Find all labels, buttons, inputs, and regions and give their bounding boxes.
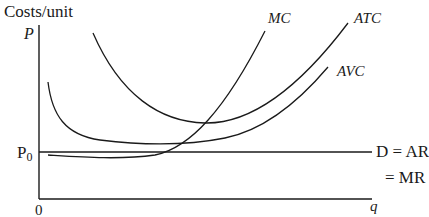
atc-label: ATC xyxy=(354,11,381,26)
mr-label: = MR xyxy=(385,169,425,186)
avc-curve xyxy=(48,67,328,144)
diagram-canvas xyxy=(0,0,429,217)
avc-label: AVC xyxy=(337,64,365,79)
mc-curve xyxy=(48,31,265,158)
mc-label: MC xyxy=(268,11,291,26)
y-axis-label: P xyxy=(24,26,34,42)
demand-label: D = AR xyxy=(376,143,429,160)
cost-curves-diagram: Costs/unit P P0 0 q MC ATC AVC D = AR = … xyxy=(0,0,429,217)
origin-label: 0 xyxy=(35,203,43,217)
y-axis-title: Costs/unit xyxy=(4,3,73,20)
price-level-label: P0 xyxy=(17,144,32,161)
x-axis-label: q xyxy=(370,199,378,214)
atc-curve xyxy=(93,23,348,123)
price-level-subscript: 0 xyxy=(26,150,32,164)
